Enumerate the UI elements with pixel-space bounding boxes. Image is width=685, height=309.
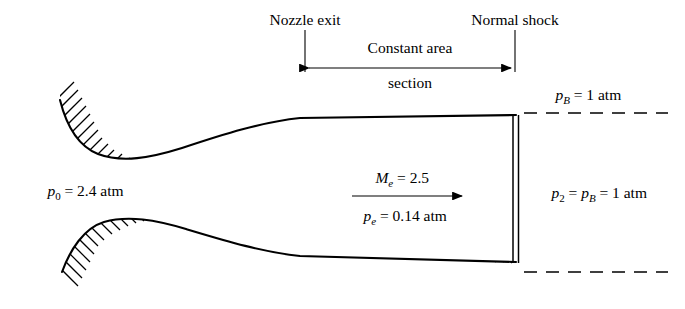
pe-symbol: p (362, 207, 371, 224)
stagnation-pressure-label: p0 = 2.4 atm (28, 182, 135, 202)
constant-area-label-line1: Constant area (368, 39, 453, 56)
exit-mach-label: Me = 2.5 (356, 169, 441, 189)
pe-value: = 0.14 atm (376, 207, 447, 224)
post-shock-pressure-label: p2 = pB = 1 atm (532, 184, 659, 204)
back-pressure-label: pB = 1 atm (536, 86, 633, 106)
p2-symbol2: p (580, 184, 589, 201)
nozzle-exit-label: Nozzle exit (269, 11, 341, 28)
nozzle-shock-diagram: Nozzle exit Normal shock Constant area s… (0, 0, 685, 309)
p0-value: = 2.4 atm (61, 182, 124, 199)
constant-area-label-line2: section (388, 74, 432, 91)
pB-symbol: p (554, 86, 563, 103)
p2-symbol: p (550, 184, 559, 201)
exit-pressure-label: pe = 0.14 atm (344, 207, 458, 227)
p2-equals: = (565, 184, 582, 201)
mach-value: = 2.5 (393, 169, 429, 186)
normal-shock-label: Normal shock (471, 11, 559, 28)
pB-value: = 1 atm (570, 86, 621, 103)
p2-value: = 1 atm (596, 184, 647, 201)
mach-symbol: M (374, 169, 389, 186)
p0-symbol: p (46, 182, 55, 199)
